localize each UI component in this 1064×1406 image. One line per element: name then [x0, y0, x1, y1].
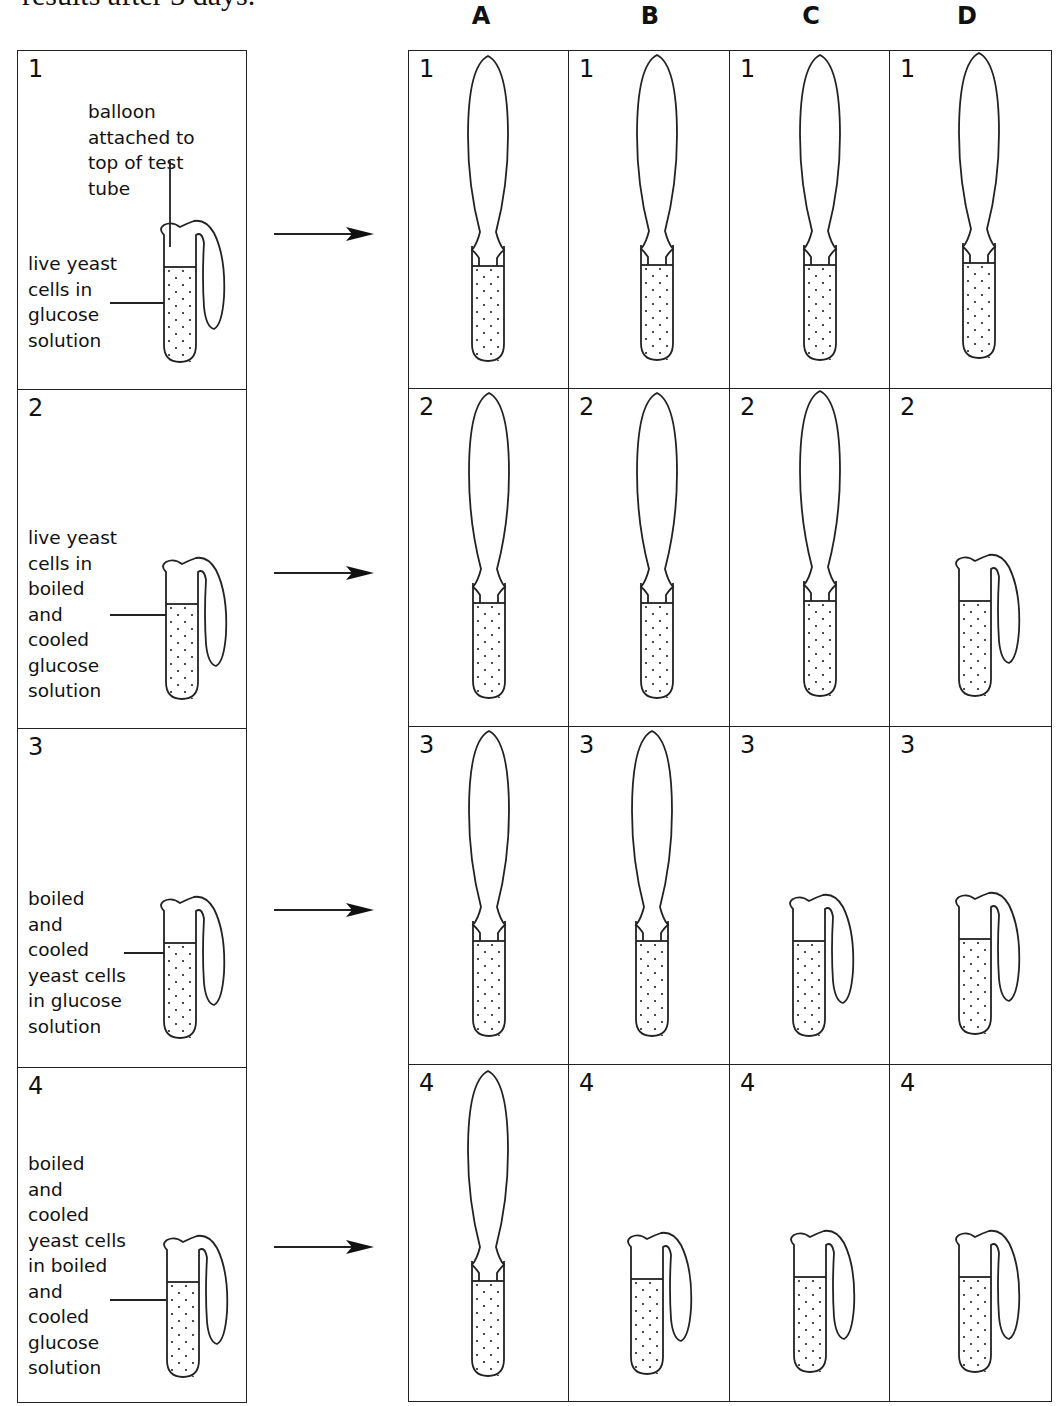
option-b-row-4[interactable]: 4 — [569, 1065, 730, 1401]
option-b-row-3[interactable]: 3 — [569, 727, 730, 1065]
inflated-balloon-icon — [730, 51, 890, 389]
inflated-balloon-icon — [890, 51, 1051, 389]
option-d-row-2[interactable]: 2 — [890, 389, 1051, 727]
option-d-row-4[interactable]: 4 — [890, 1065, 1051, 1401]
setup-box-4: 4 boiled and cooled yeast cells in boile… — [17, 1067, 247, 1403]
option-a-row-4[interactable]: 4 — [409, 1065, 569, 1401]
setup-box-1: 1 balloon attached to top of test tube l… — [17, 50, 247, 390]
arrow-right-icon — [274, 563, 374, 583]
setup-box-3: 3 boiled and cooled yeast cells in gluco… — [17, 728, 247, 1068]
inflated-balloon-icon — [409, 727, 569, 1065]
intro-text: results after 3 days. — [22, 0, 255, 12]
test-tube-with-deflated-balloon-icon — [18, 51, 248, 391]
option-b-row-1[interactable]: 1 — [569, 51, 730, 389]
option-a-row-3[interactable]: 3 — [409, 727, 569, 1065]
option-d-row-1[interactable]: 1 — [890, 51, 1051, 389]
deflated-balloon-icon — [890, 1065, 1051, 1401]
column-header-b: B — [630, 2, 670, 30]
option-d-row-3[interactable]: 3 — [890, 727, 1051, 1065]
option-b-row-2[interactable]: 2 — [569, 389, 730, 727]
option-c-row-2[interactable]: 2 — [730, 389, 890, 727]
deflated-balloon-icon — [730, 1065, 890, 1401]
results-grid: 1 1 1 1 2 2 2 2 3 3 3 3 — [408, 50, 1052, 1402]
option-a-row-2[interactable]: 2 — [409, 389, 569, 727]
arrow-right-icon — [274, 900, 374, 920]
deflated-balloon-icon — [569, 1065, 730, 1401]
inflated-balloon-icon — [409, 389, 569, 727]
option-c-row-3[interactable]: 3 — [730, 727, 890, 1065]
test-tube-with-deflated-balloon-icon — [18, 1068, 248, 1404]
test-tube-with-deflated-balloon-icon — [18, 390, 248, 730]
option-a-row-1[interactable]: 1 — [409, 51, 569, 389]
test-tube-with-deflated-balloon-icon — [18, 729, 248, 1069]
inflated-balloon-icon — [569, 389, 730, 727]
deflated-balloon-icon — [890, 389, 1051, 727]
inflated-balloon-icon — [569, 51, 730, 389]
inflated-balloon-icon — [569, 727, 730, 1065]
column-header-d: D — [947, 2, 987, 30]
arrow-right-icon — [274, 224, 374, 244]
column-header-a: A — [461, 2, 501, 30]
inflated-balloon-icon — [730, 389, 890, 727]
setup-box-2: 2 live yeast cells in boiled and cooled … — [17, 389, 247, 729]
inflated-balloon-icon — [409, 1065, 569, 1401]
deflated-balloon-icon — [730, 727, 890, 1065]
option-c-row-4[interactable]: 4 — [730, 1065, 890, 1401]
inflated-balloon-icon — [409, 51, 569, 389]
column-header-c: C — [791, 2, 831, 30]
option-c-row-1[interactable]: 1 — [730, 51, 890, 389]
deflated-balloon-icon — [890, 727, 1051, 1065]
arrow-right-icon — [274, 1237, 374, 1257]
